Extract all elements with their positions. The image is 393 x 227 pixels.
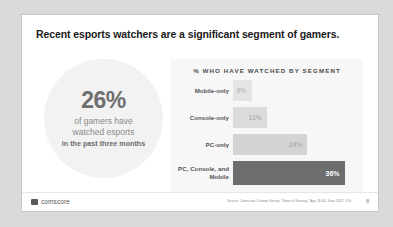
bar-fill: 24% [233,134,307,155]
stat-line-3: in the past three months [62,139,145,148]
source-note: Source: Comscore Custom Survey, "State o… [227,199,352,203]
bar-value-label: 36% [326,170,345,177]
slide-frame: Recent esports watchers are a significan… [21,14,379,212]
stat-line-2: watched esports [73,127,135,138]
bar-category-label: PC-only [175,141,229,149]
bar-row: Mobile-only6% [171,80,363,101]
footer-divider [22,192,379,193]
bar-track: 6% [233,80,357,101]
chart-title: % WHO HAVE WATCHED BY SEGMENT [171,67,363,74]
bar-chart-bars: Mobile-only6%Console-only11%PC-only24%PC… [171,80,363,185]
bar-track: 24% [233,134,357,155]
comscore-logo: comscore [31,198,70,205]
bar-chart-panel: % WHO HAVE WATCHED BY SEGMENT Mobile-onl… [171,59,363,193]
bar-row: PC-only24% [171,134,363,155]
bar-track: 11% [233,107,357,128]
bar-fill: 6% [233,80,252,101]
bar-row: PC, Console, and Mobile36% [171,161,363,185]
page-number: 8 [366,198,369,204]
bar-value-label: 11% [248,114,267,121]
logo-text: comscore [41,198,70,205]
bar-category-label: PC, Console, and Mobile [175,165,229,181]
bar-category-label: Console-only [175,114,229,122]
bar-fill: 36% [233,161,345,185]
square-mark-icon [31,199,38,205]
page-title: Recent esports watchers are a significan… [36,29,366,41]
bar-fill: 11% [233,107,267,128]
stat-line-1: of gamers have [74,116,133,127]
stat-circle: 26% of gamers have watched esports in th… [44,59,163,178]
bar-value-label: 6% [236,87,251,94]
bar-track: 36% [233,161,357,185]
stat-value: 26% [81,89,126,112]
bar-value-label: 24% [288,141,307,148]
bar-row: Console-only11% [171,107,363,128]
bar-category-label: Mobile-only [175,87,229,95]
